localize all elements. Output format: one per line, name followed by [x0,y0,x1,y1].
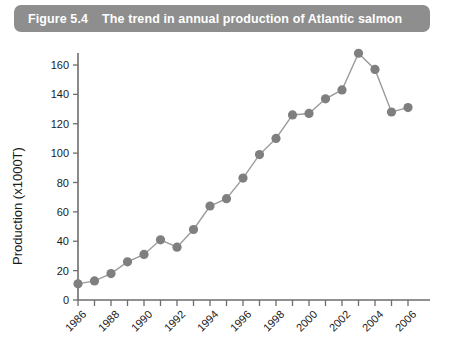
y-axis: 020406080100120140160 [51,53,78,306]
y-axis-title: Production (x1000T) [10,147,25,265]
data-point [321,94,330,103]
x-tick-label: 2002 [327,308,353,334]
figure-title-label: The trend in annual production of Atlant… [102,12,402,26]
data-point [172,243,181,252]
x-tick-label: 1990 [129,308,155,334]
x-tick-label: 1988 [96,308,122,334]
x-tick-label: 1992 [162,308,188,334]
series-markers-production [73,49,412,289]
data-point [73,279,82,288]
data-point [403,103,412,112]
y-tick-label: 120 [51,118,69,130]
data-point [156,235,165,244]
data-point [139,250,148,259]
data-point [387,107,396,116]
x-tick-label: 1998 [261,308,287,334]
y-tick-label: 20 [57,265,69,277]
figure-number-label: Figure 5.4 [28,12,88,26]
data-point [222,194,231,203]
data-point [205,201,214,210]
x-tick-label: 1996 [228,308,254,334]
y-tick-label: 60 [57,206,69,218]
x-tick-label: 1986 [63,308,89,334]
data-point [337,85,346,94]
data-point [90,276,99,285]
data-point [255,150,264,159]
figure-caption-bar: Figure 5.4 The trend in annual productio… [14,5,430,32]
y-tick-label: 140 [51,88,69,100]
y-tick-label: 40 [57,235,69,247]
data-point [304,109,313,118]
x-axis: 1986198819901992199419961998200020022004… [63,300,430,334]
y-tick-label: 160 [51,59,69,71]
data-point [354,49,363,58]
x-tick-label: 1994 [195,308,221,334]
chart-canvas: 020406080100120140160 198619881990199219… [0,36,457,360]
data-point [106,269,115,278]
line-chart: 020406080100120140160 198619881990199219… [0,36,457,360]
y-tick-label: 0 [63,294,69,306]
x-tick-label: 2004 [360,308,386,334]
data-point [288,110,297,119]
x-tick-label: 2000 [294,308,320,334]
series-line-production [78,53,408,284]
data-point [271,134,280,143]
data-point [123,257,132,266]
x-tick-label: 2006 [393,308,419,334]
data-point [370,65,379,74]
y-tick-label: 80 [57,177,69,189]
data-point [238,173,247,182]
y-tick-label: 100 [51,147,69,159]
data-point [189,225,198,234]
